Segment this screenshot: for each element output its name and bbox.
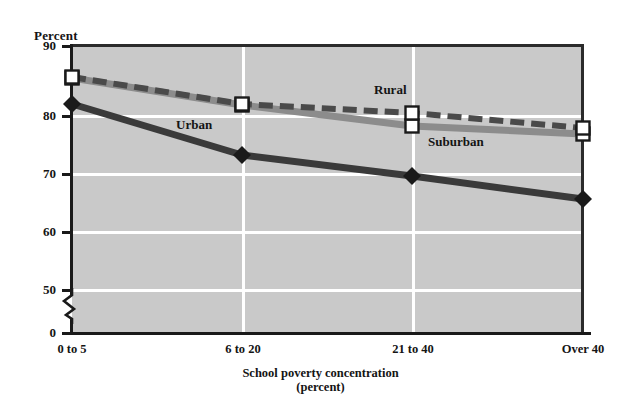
marker-rural-21-to-40: [406, 107, 419, 120]
marker-rural-0-to-5: [66, 71, 79, 84]
marker-rural-over-40: [577, 122, 590, 135]
series-line-rural: [72, 77, 583, 128]
marker-urban-6-to-20: [233, 146, 251, 164]
marker-urban-over-40: [574, 190, 592, 208]
marker-urban-21-to-40: [403, 167, 421, 185]
series-label-suburban: Suburban: [428, 134, 484, 150]
chart-container: Percent 90 80 70 60 50 0 0 to 5 6 to 20 …: [0, 0, 641, 411]
marker-rural-6-to-20: [236, 98, 249, 111]
series-layer: [0, 0, 641, 411]
series-label-urban: Urban: [176, 117, 212, 133]
marker-urban-0-to-5: [63, 95, 81, 113]
series-label-rural: Rural: [374, 82, 407, 98]
marker-suburban-21-to-40: [406, 120, 419, 133]
